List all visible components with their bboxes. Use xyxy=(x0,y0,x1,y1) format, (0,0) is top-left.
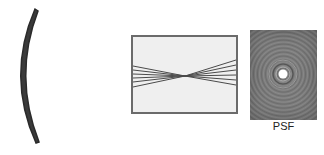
focusing-rays xyxy=(133,37,236,112)
psf-label: PSF xyxy=(250,120,317,132)
ray-diagram-panel xyxy=(131,35,238,114)
psf-airy-pattern xyxy=(250,30,317,120)
lens-illustration xyxy=(0,0,60,155)
psf-image xyxy=(250,30,317,120)
